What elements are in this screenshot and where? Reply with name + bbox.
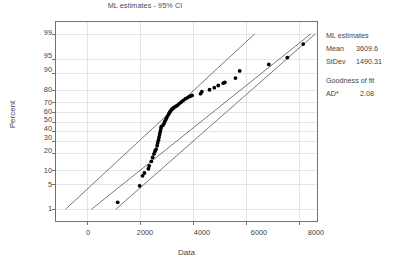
mean-row: Mean 3609.6 <box>326 45 402 53</box>
data-point <box>234 76 238 80</box>
data-point <box>208 88 212 92</box>
data-point <box>223 81 227 85</box>
stdev-value: 1490.31 <box>356 58 382 66</box>
ml-estimates-header: ML estimates <box>326 32 402 40</box>
data-point <box>151 156 155 160</box>
plot-frame <box>56 22 318 222</box>
data-point <box>267 63 271 67</box>
data-point <box>149 159 153 163</box>
data-point <box>238 69 242 73</box>
ad-row: AD* 2.08 <box>326 90 402 98</box>
probability-plot: ML estimates - 95% CI Percent Data 99 95… <box>0 0 402 272</box>
goodness-of-fit-header: Goodness of fit <box>326 77 402 85</box>
data-point <box>301 42 305 46</box>
statistics-panel: ML estimates Mean 3609.6 StDev 1490.31 G… <box>326 32 402 103</box>
data-point <box>138 184 142 188</box>
mean-label: Mean <box>326 45 344 53</box>
ci-lower-line <box>116 34 316 209</box>
data-point <box>190 94 194 98</box>
gridlines <box>56 22 318 222</box>
data-point <box>200 90 204 94</box>
stdev-row: StDev 1490.31 <box>326 58 402 66</box>
data-point <box>212 86 216 90</box>
data-point <box>116 200 120 204</box>
stdev-label: StDev <box>326 58 346 66</box>
fit-and-ci-lines <box>66 34 316 209</box>
axis-ticks <box>52 35 300 226</box>
data-point <box>216 84 220 88</box>
mean-value: 3609.6 <box>356 45 378 53</box>
data-points <box>116 42 305 204</box>
ad-value: 2.08 <box>360 90 374 98</box>
ad-label: AD* <box>326 90 339 98</box>
fit-line <box>91 34 310 209</box>
ci-upper-line <box>66 34 255 209</box>
data-point <box>147 164 151 168</box>
data-point <box>143 171 147 175</box>
data-point <box>154 147 158 151</box>
data-point <box>285 56 289 60</box>
